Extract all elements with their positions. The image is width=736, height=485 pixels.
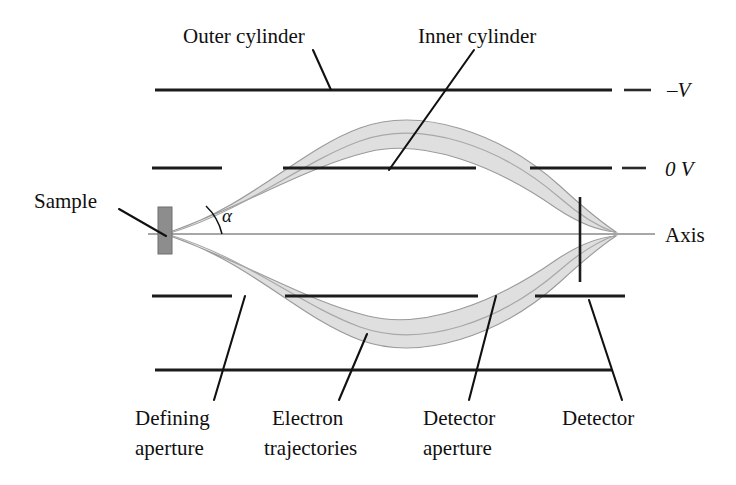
label-inner-cylinder: Inner cylinder bbox=[418, 24, 536, 48]
diagram-canvas: Outer cylinder Inner cylinder Sample –V … bbox=[0, 0, 736, 485]
label-detector-aperture-line1: Detector bbox=[423, 406, 495, 430]
label-detector-aperture-line2: aperture bbox=[423, 436, 492, 460]
leader-defining-aperture bbox=[214, 296, 245, 400]
label-voltage-zero: 0 V bbox=[665, 157, 696, 181]
label-defining-aperture-line1: Defining bbox=[135, 406, 210, 430]
leader-outer-cylinder bbox=[313, 50, 331, 90]
label-detector: Detector bbox=[562, 406, 634, 430]
label-alpha-angle: α bbox=[222, 205, 233, 226]
label-electron-trajectories-line2: trajectories bbox=[264, 436, 357, 460]
label-axis: Axis bbox=[665, 223, 705, 247]
label-electron-trajectories-line1: Electron bbox=[272, 406, 344, 430]
label-outer-cylinder: Outer cylinder bbox=[183, 24, 305, 48]
sample-block bbox=[158, 207, 172, 254]
trajectory-band-upper bbox=[170, 120, 616, 232]
leader-electron-trajectories bbox=[339, 334, 367, 400]
trajectory-band-lower bbox=[170, 236, 616, 348]
label-sample: Sample bbox=[34, 189, 97, 213]
leader-detector bbox=[589, 300, 622, 400]
label-voltage-negative: –V bbox=[666, 78, 693, 102]
label-defining-aperture-line2: aperture bbox=[135, 436, 204, 460]
cma-diagram: Outer cylinder Inner cylinder Sample –V … bbox=[0, 0, 736, 485]
